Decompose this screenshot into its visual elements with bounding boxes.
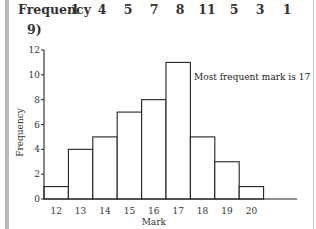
y-tick-label: 2 [34,169,40,179]
histogram-bar [117,112,141,199]
y-tick-label: 10 [29,70,41,80]
x-tick-label: 19 [221,206,233,216]
y-tick-label: 4 [34,144,40,154]
y-tick-label: 12 [29,45,40,55]
y-tick-label: 8 [34,95,40,105]
histogram-bar [166,62,190,199]
x-tick-label: 15 [124,206,136,216]
y-tick-label: 0 [34,194,40,204]
x-tick-label: 12 [50,206,61,216]
histogram-bar [93,137,117,199]
histogram-bar [44,187,68,199]
x-tick-label: 18 [197,206,209,216]
chart-annotation: Most frequent mark is 17 [194,72,310,82]
x-tick-label: 13 [75,206,87,216]
histogram-bar [190,137,214,199]
histogram-bar [239,187,263,199]
histogram-bar [142,100,166,199]
x-tick-label: 20 [246,206,258,216]
y-axis-label: Frequency [15,107,25,157]
y-tick-label: 6 [34,120,40,130]
histogram-bar [215,162,239,199]
histogram-bar [68,149,92,199]
x-tick-label: 17 [172,206,184,216]
x-axis-label: Mark [142,217,167,227]
x-tick-label: 16 [148,206,160,216]
x-tick-label: 14 [99,206,111,216]
histogram-chart: 121314151617181920024681012MarkFrequency… [0,0,316,229]
